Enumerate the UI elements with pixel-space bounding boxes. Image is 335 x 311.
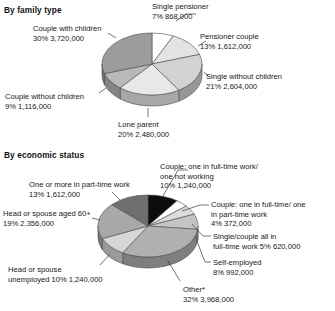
pie-label-part-time-work-stat: 13% 1,612,000 (29, 190, 130, 200)
chart-panel-economic-status: By economic status Couple: one in full-t… (0, 148, 335, 311)
leader-line-other (168, 261, 180, 281)
pie-label-other-stat: 32% 3,968,000 (183, 295, 234, 305)
pie-label-lone-parent-stat: 20% 2,480,000 (118, 130, 169, 140)
pie-label-self-employed: Self-employed 8% 992,000 (213, 258, 262, 277)
pie-label-single-couple-all-ft: Single/couple all in full-time work 5% 6… (213, 232, 300, 251)
pie-label-single-pensioner: Single pensioner 7% 868,000 (152, 2, 209, 21)
pie-label-part-time-work: One or more in part-time work 13% 1,612,… (29, 180, 130, 199)
pie-label-couple-without-children-stat: 9% 1,116,000 (5, 102, 84, 112)
pie-label-couple-one-ft-one-not-working-line2: one not working (160, 172, 258, 182)
pie-label-couple-one-ft-one-pt-line2: in part-time work (211, 210, 306, 220)
leader-line-head-unemployed (100, 254, 110, 265)
pie-label-head-aged-60: Head or spouse aged 60+ 19% 2,356,000 (3, 209, 91, 228)
pie-label-couple-one-ft-one-not-working: Couple: one in full-time work/ one not w… (160, 162, 258, 191)
pie-label-couple-with-children-name: Couple with children (33, 24, 101, 34)
pie-label-couple-one-ft-one-pt-line1: Couple: one in full-time/ one (211, 200, 306, 210)
pie-label-part-time-work-name: One or more in part-time work (29, 180, 130, 190)
pie-label-pensioner-couple-name: Pensioner couple (200, 32, 259, 42)
pie-label-pensioner-couple-stat: 13% 1,612,000 (200, 42, 259, 52)
pie-label-self-employed-stat: 8% 992,000 (213, 268, 262, 278)
pie-label-single-pensioner-stat: 7% 868,000 (152, 12, 209, 22)
pie-label-head-aged-60-name: Head or spouse aged 60+ (3, 209, 91, 219)
pie-label-lone-parent: Lone parent 20% 2,480,000 (118, 120, 169, 139)
pie-label-head-unemployed: Head or spouse unemployed 10% 1,240,000 (8, 265, 103, 284)
pie-label-single-couple-all-ft-line1: Single/couple all in (213, 232, 300, 242)
pie-label-single-without-children-stat: 21% 2,604,000 (206, 82, 282, 92)
pie-label-lone-parent-name: Lone parent (118, 120, 169, 130)
pie-label-head-unemployed-line2: unemployed 10% 1,240,000 (8, 275, 103, 285)
pie-label-single-pensioner-name: Single pensioner (152, 2, 209, 12)
pie-label-self-employed-name: Self-employed (213, 258, 262, 268)
pie-label-other: Other* 32% 3,968,000 (183, 285, 234, 304)
pie-label-couple-one-ft-one-not-working-line1: Couple: one in full-time work/ (160, 162, 258, 172)
pie-label-other-name: Other* (183, 285, 234, 295)
pie-label-couple-one-ft-one-pt: Couple: one in full-time/ one in part-ti… (211, 200, 306, 229)
pie-label-pensioner-couple: Pensioner couple 13% 1,612,000 (200, 32, 259, 51)
leader-line-couple-without-children (99, 88, 106, 93)
pie-label-single-without-children-name: Single without children (206, 72, 282, 82)
pie-label-head-unemployed-line1: Head or spouse (8, 265, 103, 275)
pie-label-couple-with-children-stat: 30% 3,720,000 (33, 34, 101, 44)
pie-label-single-couple-all-ft-line2: full-time work 5% 620,000 (213, 242, 300, 252)
pie-label-head-aged-60-stat: 19% 2,356,000 (3, 219, 91, 229)
pie-label-couple-without-children: Couple without children 9% 1,116,000 (5, 92, 84, 111)
pie-label-couple-with-children: Couple with children 30% 3,720,000 (33, 24, 101, 43)
pie-label-single-without-children: Single without children 21% 2,604,000 (206, 72, 282, 91)
pie-label-couple-one-ft-one-not-working-stat: 10% 1,240,000 (160, 181, 258, 191)
leader-line-couple-with-children (108, 33, 116, 38)
pie-label-couple-one-ft-one-pt-stat: 4% 372,000 (211, 219, 306, 229)
leader-line-head-aged-60 (92, 218, 100, 220)
chart-panel-family-type: By family type Single pensioner 7% 868,0… (0, 0, 335, 148)
pie-label-couple-without-children-name: Couple without children (5, 92, 84, 102)
